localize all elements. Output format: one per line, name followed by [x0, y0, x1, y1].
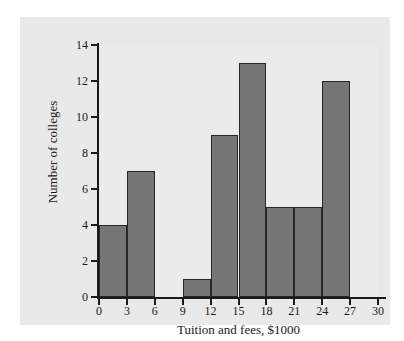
y-axis-tick-label: 14	[58, 39, 88, 51]
y-axis-tick-label: 4	[58, 219, 88, 231]
x-axis-tick-label: 3	[112, 305, 142, 318]
y-axis-title: Number of colleges	[45, 62, 61, 242]
histogram-bar	[294, 207, 322, 297]
y-axis-tick-label: 12	[58, 75, 88, 87]
y-axis-tick-label: 2	[58, 255, 88, 267]
figure-panel: 02468101214 036912151821242730 Tuition a…	[20, 17, 390, 325]
y-axis-tick-label: 0	[58, 291, 88, 303]
y-axis-tick-label: 8	[58, 147, 88, 159]
x-axis-tick-label: 24	[307, 305, 337, 318]
x-axis-tick-label: 6	[140, 305, 170, 318]
histogram-screenshot: 02468101214 036912151821242730 Tuition a…	[0, 0, 404, 341]
x-axis-tick-label: 30	[363, 305, 393, 318]
x-axis-tick-label: 9	[168, 305, 198, 318]
x-axis-tick-label: 27	[335, 305, 365, 318]
x-axis-tick-label: 18	[251, 305, 281, 318]
y-axis-tick-mark	[91, 80, 97, 82]
y-axis-tick-label: 6	[58, 183, 88, 195]
histogram-bar	[99, 225, 127, 297]
y-axis-tick-mark	[91, 116, 97, 118]
y-axis-tick-mark	[91, 224, 97, 226]
y-axis-tick-mark	[91, 44, 97, 46]
y-axis-tick-mark	[91, 260, 97, 262]
y-axis-tick-mark	[91, 152, 97, 154]
x-axis-tick-label: 0	[84, 305, 114, 318]
histogram-bar	[127, 171, 155, 297]
x-axis-tick-label: 15	[224, 305, 254, 318]
x-axis-line	[97, 297, 386, 299]
y-axis-tick-mark	[91, 296, 97, 298]
histogram-bar	[322, 81, 350, 297]
x-axis-title: Tuition and fees, $1000	[99, 322, 378, 338]
histogram-bar	[183, 279, 211, 297]
x-axis-tick-label: 12	[196, 305, 226, 318]
y-axis-tick-label: 10	[58, 111, 88, 123]
y-axis-tick-mark	[91, 188, 97, 190]
histogram-bar	[266, 207, 294, 297]
x-axis-tick-label: 21	[279, 305, 309, 318]
histogram-bar	[211, 135, 239, 297]
histogram-bar	[239, 63, 267, 297]
